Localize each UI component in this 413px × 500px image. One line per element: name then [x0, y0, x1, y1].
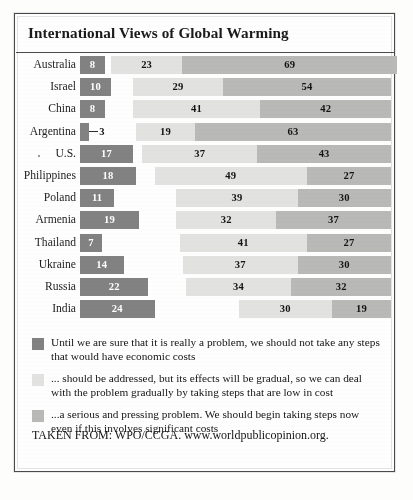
chart-row: Israel102954 [15, 76, 396, 98]
bar-value-label: 30 [239, 300, 332, 318]
bar-track: 102954 [80, 78, 391, 96]
bar-segment: 37 [142, 145, 257, 163]
bar-value-label: 39 [176, 189, 297, 207]
row-label-armenia: Armenia [15, 209, 76, 231]
row-label-thailand: Thailand [15, 232, 76, 254]
chart-row: Ukraine143730 [15, 254, 396, 276]
bar-segment: 11 [80, 189, 114, 207]
bar-value-label: 27 [307, 167, 391, 185]
legend-item: ... should be addressed, but its effects… [15, 372, 396, 399]
bar-segment: 19 [332, 300, 391, 318]
title-divider [16, 52, 395, 53]
chart-row: Philippines184927 [15, 165, 396, 187]
row-label-australia: Australia [15, 54, 76, 76]
bar-value-label: 30 [298, 256, 391, 274]
bar-value-label: 43 [257, 145, 391, 163]
bar-track: 82369 [80, 56, 391, 74]
bar-segment: 27 [307, 234, 391, 252]
bar-segment: 42 [260, 100, 391, 118]
bar-segment: 43 [257, 145, 391, 163]
bar-track: 193237 [80, 211, 391, 229]
bar-segment [80, 123, 89, 141]
row-label-us: U.S. [15, 143, 76, 165]
bar-track: 173743 [80, 145, 391, 163]
bar-segment: 22 [80, 278, 148, 296]
bar-value-label: 8 [80, 56, 105, 74]
bar-value-label: 17 [80, 145, 133, 163]
row-label-india: India [15, 298, 76, 320]
figure-frame: International Views of Global Warming Au… [14, 13, 395, 472]
bar-value-label: 24 [80, 300, 155, 318]
bar-segment: 32 [291, 278, 391, 296]
bar-value-label: 54 [223, 78, 391, 96]
row-label-russia: Russia [15, 276, 76, 298]
bar-value-label: 37 [142, 145, 257, 163]
legend-swatch-serious-pressing [32, 410, 44, 422]
bar-segment: 8 [80, 56, 105, 74]
bar-segment: 49 [155, 167, 307, 185]
bar-segment: 41 [133, 100, 261, 118]
bar-segment: 63 [195, 123, 391, 141]
bar-segment: 17 [80, 145, 133, 163]
bar-value-label: 37 [276, 211, 391, 229]
bar-track: 113930 [80, 189, 391, 207]
bar-segment: 19 [136, 123, 195, 141]
bar-value-label: 42 [260, 100, 391, 118]
bar-segment: 24 [80, 300, 155, 318]
legend-swatch-gradual [32, 374, 44, 386]
bar-value-label: 30 [298, 189, 391, 207]
row-label-poland: Poland [15, 187, 76, 209]
bar-segment: 19 [80, 211, 139, 229]
bar-track: 84142 [80, 100, 391, 118]
bar-value-label: 29 [133, 78, 223, 96]
bar-value-label: 19 [136, 123, 195, 141]
bar-value-label: 27 [307, 234, 391, 252]
bar-value-label: 3 [99, 123, 104, 141]
value-leader-line [89, 131, 98, 132]
bar-segment: 18 [80, 167, 136, 185]
bar-track: 184927 [80, 167, 391, 185]
bar-segment: 30 [298, 189, 391, 207]
bar-segment: 34 [186, 278, 292, 296]
bar-value-label: 63 [195, 123, 391, 141]
chart-row: Russia223432 [15, 276, 396, 298]
bar-segment: 69 [182, 56, 397, 74]
bar-value-label: 41 [133, 100, 261, 118]
scanned-page: International Views of Global Warming Au… [0, 0, 413, 500]
bar-value-label: 32 [291, 278, 391, 296]
legend-label: Until we are sure that it is really a pr… [51, 336, 396, 363]
bar-segment: 10 [80, 78, 111, 96]
chart-row: Armenia193237 [15, 209, 396, 231]
bar-value-label: 14 [80, 256, 124, 274]
bar-segment: 27 [307, 167, 391, 185]
bar-value-label: 23 [111, 56, 183, 74]
bar-track: 143730 [80, 256, 391, 274]
bar-segment: 14 [80, 256, 124, 274]
scan-speck [38, 155, 40, 157]
bar-track: 74127 [80, 234, 391, 252]
chart-row: China84142 [15, 98, 396, 120]
bar-segment: 32 [176, 211, 276, 229]
bar-segment: 30 [239, 300, 332, 318]
bar-segment: 39 [176, 189, 297, 207]
bar-segment: 30 [298, 256, 391, 274]
bar-track: 31963 [80, 123, 391, 141]
bar-value-label: 8 [80, 100, 105, 118]
bar-segment: 8 [80, 100, 105, 118]
bar-segment: 7 [80, 234, 102, 252]
row-label-philippines: Philippines [15, 165, 76, 187]
chart-row: Poland113930 [15, 187, 396, 209]
row-label-ukraine: Ukraine [15, 254, 76, 276]
bar-segment: 37 [276, 211, 391, 229]
bar-value-label: 18 [80, 167, 136, 185]
stacked-bar-chart: Australia82369Israel102954China84142Arge… [15, 54, 396, 336]
page-title: International Views of Global Warming [28, 24, 289, 42]
bar-value-label: 37 [183, 256, 298, 274]
bar-segment: 54 [223, 78, 391, 96]
bar-segment: 29 [133, 78, 223, 96]
bar-segment: 23 [111, 56, 183, 74]
bar-track: 243019 [80, 300, 391, 318]
chart-row: India243019 [15, 298, 396, 320]
legend-swatch-not-take-steps [32, 338, 44, 350]
row-label-argentina: Argentina [15, 121, 76, 143]
